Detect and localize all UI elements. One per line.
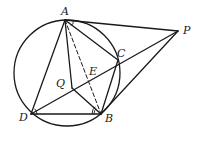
label-C: C bbox=[117, 48, 125, 59]
label-B: B bbox=[105, 113, 113, 124]
label-A: A bbox=[61, 6, 69, 17]
label-P: P bbox=[183, 25, 190, 36]
tangent-PB bbox=[101, 31, 178, 114]
segment-AD bbox=[31, 20, 65, 114]
tangent-AP bbox=[65, 20, 178, 31]
geometry-canvas bbox=[0, 0, 202, 146]
geometry-figure: A P C E Q D B bbox=[0, 0, 202, 146]
label-D: D bbox=[19, 112, 28, 123]
segment-CB bbox=[101, 60, 118, 114]
label-E: E bbox=[89, 66, 97, 77]
label-Q: Q bbox=[56, 78, 65, 89]
segment-QB bbox=[72, 88, 101, 114]
